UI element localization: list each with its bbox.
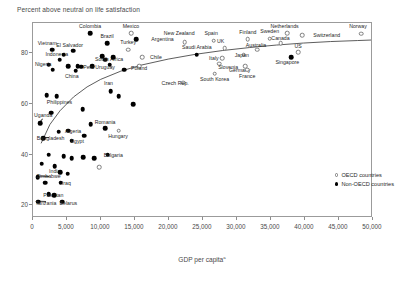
legend-item[interactable]: Non-OECD countries [335,181,394,187]
data-point[interactable] [57,57,62,62]
data-point[interactable] [245,68,250,73]
point-label: Turkey [120,39,136,45]
data-point[interactable] [222,46,227,51]
data-point[interactable] [359,31,364,36]
data-point[interactable] [92,156,97,161]
data-point[interactable] [255,47,260,52]
point-label: Saudi Arabia [182,44,212,50]
data-point[interactable] [195,52,200,57]
data-point[interactable] [46,152,51,157]
x-axis-title-footnote: a [223,255,225,260]
point-label: Brazil [101,33,114,39]
x-axis-tick-label: 45,000 [328,223,347,230]
data-point[interactable] [116,94,121,99]
point-label: Sweden [260,28,279,34]
point-label: Italy [209,55,219,61]
y-axis-tick-label: 40 [12,150,28,157]
point-label: China [65,73,79,79]
x-axis-tick-mark [168,217,169,220]
point-label: Romania [95,119,116,125]
point-label: Czech Rep. [161,80,188,86]
x-axis-tick-label: 25,000 [192,223,211,230]
data-point[interactable] [57,130,62,135]
data-point[interactable] [44,93,49,98]
x-axis-tick-mark [32,217,33,220]
data-point[interactable] [66,64,71,69]
x-axis-title-text: GDP per capita [178,256,223,263]
y-axis-tick-mark [29,154,32,155]
x-axis-tick-mark [338,217,339,220]
data-point[interactable] [88,31,93,36]
y-axis-tick-mark [29,52,32,53]
y-axis-tick-label: 20 [12,201,28,208]
data-point[interactable] [58,170,63,175]
data-point[interactable] [108,89,113,94]
point-label: Peru [83,64,94,70]
point-label: South Korea [200,76,229,82]
data-point[interactable] [49,111,54,116]
data-point[interactable] [38,121,43,126]
data-point[interactable] [105,41,110,46]
x-axis-tick-label: 50,000 [362,223,381,230]
data-point[interactable] [126,47,131,52]
point-label: Vietnam [38,40,57,46]
point-label: Philippines [47,99,72,105]
data-point[interactable] [122,68,127,73]
data-point[interactable] [79,64,84,69]
point-label: Chile [150,54,162,60]
data-point[interactable] [82,133,87,138]
y-axis-tick-label: 60 [12,100,28,107]
plot-frame: ColombiaMexicoArgentinaBrazilVietnamEl S… [32,22,372,217]
point-label: El Salvador [56,42,83,48]
data-point[interactable] [81,155,86,160]
point-label: Egypt [71,138,84,144]
point-label: Singapore [275,59,299,65]
point-label: Iraq [62,180,71,186]
data-point[interactable] [61,52,66,57]
data-point[interactable] [43,180,48,185]
data-point[interactable] [296,50,301,55]
data-point[interactable] [131,102,136,107]
data-point[interactable] [89,122,94,127]
chart-legend: OECD countriesNon-OECD countries [335,172,394,190]
data-point[interactable] [129,31,134,36]
point-label: Uruguay [95,64,115,70]
legend-item[interactable]: OECD countries [335,172,394,178]
data-point[interactable] [182,40,187,45]
data-point[interactable] [69,156,74,161]
data-point[interactable] [278,41,283,46]
data-point[interactable] [71,49,76,54]
data-point[interactable] [111,55,116,60]
data-point[interactable] [220,56,225,61]
data-point[interactable] [40,161,45,166]
x-axis-tick-mark [100,217,101,220]
x-axis-tick-label: 0 [30,223,34,230]
legend-label: Non-OECD countries [341,181,394,187]
data-point[interactable] [140,55,145,60]
point-label: Algeria [65,128,81,134]
data-point[interactable] [65,171,70,176]
legend-label: OECD countries [341,172,381,178]
y-axis-tick-mark [29,204,32,205]
point-label: Canada [271,35,289,41]
x-axis-tick-mark [372,217,373,220]
data-point[interactable] [61,154,66,159]
point-label: Nigeria [35,61,52,67]
x-axis-tick-mark [270,217,271,220]
plot-area: ColombiaMexicoArgentinaBrazilVietnamEl S… [33,23,371,216]
point-label: Japan [235,52,249,58]
x-axis-tick-label: 35,000 [260,223,279,230]
data-point[interactable] [300,33,305,38]
data-point[interactable] [52,193,57,198]
point-label: New Zealand [164,30,195,36]
point-label: Mexico [123,23,140,29]
chart-figure: Percent above neutral on life satisfacti… [0,0,404,287]
point-label: UK [217,38,224,44]
data-point[interactable] [97,165,102,170]
data-point[interactable] [212,38,217,43]
data-point[interactable] [50,68,55,73]
data-point[interactable] [103,126,108,131]
legend-marker-icon [335,182,339,186]
data-point[interactable] [80,107,85,112]
data-point[interactable] [100,54,105,59]
